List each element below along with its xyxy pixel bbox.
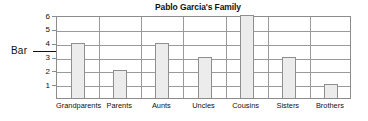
y-tick-mark-4 (52, 44, 56, 45)
bar-chart: Pablo Garcia's Family Bar 123456Grandpar… (0, 0, 368, 121)
y-tick-label-3: 3 (38, 53, 50, 62)
x-tick-label-uncles: Uncles (182, 101, 224, 111)
bar-annotation-label: Bar (11, 45, 27, 57)
category-divider-2 (141, 17, 142, 98)
y-tick-mark-6 (52, 16, 56, 17)
y-tick-label-4: 4 (38, 39, 50, 48)
x-tick-label-sisters: Sisters (267, 101, 309, 111)
gridline-4 (57, 45, 350, 46)
category-divider-5 (268, 17, 269, 98)
x-tick-label-parents: Parents (98, 101, 140, 111)
category-divider-6 (310, 17, 311, 98)
bar-brothers (324, 84, 338, 98)
category-divider-3 (183, 17, 184, 98)
bar-cousins (240, 15, 254, 98)
bar-parents (113, 70, 127, 98)
y-tick-label-5: 5 (38, 25, 50, 34)
x-tick-label-cousins: Cousins (225, 101, 267, 111)
x-tick-label-grandparents: Grandparents (56, 101, 98, 111)
bar-grandparents (71, 43, 85, 98)
bar-aunts (155, 43, 169, 98)
y-tick-label-1: 1 (38, 81, 50, 90)
gridline-5 (57, 31, 350, 32)
category-divider-4 (226, 17, 227, 98)
bar-sisters (282, 57, 296, 99)
chart-title: Pablo Garcia's Family (45, 2, 351, 13)
x-tick-label-aunts: Aunts (140, 101, 182, 111)
y-tick-mark-5 (52, 30, 56, 31)
category-divider-1 (99, 17, 100, 98)
y-tick-label-6: 6 (38, 12, 50, 21)
bar-uncles (198, 57, 212, 99)
y-tick-label-2: 2 (38, 67, 50, 76)
y-tick-mark-1 (52, 85, 56, 86)
y-tick-mark-3 (52, 58, 56, 59)
y-tick-mark-2 (52, 71, 56, 72)
plot-area (56, 16, 351, 99)
x-tick-label-brothers: Brothers (309, 101, 351, 111)
